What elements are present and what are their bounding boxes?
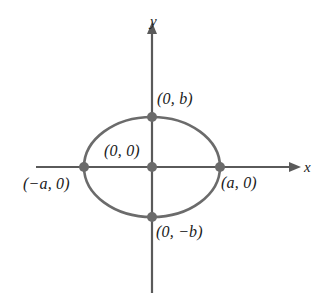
point-top-vertex (147, 112, 157, 122)
label-top-vertex: (0, b) (157, 91, 193, 107)
figure-canvas (0, 0, 323, 307)
ellipse-figure: (0, b) (0, 0) (−a, 0) (a, 0) (0, −b) y x (0, 0, 323, 307)
point-center-origin (147, 162, 157, 172)
label-left-vertex: (−a, 0) (23, 176, 70, 192)
label-bottom-vertex: (0, −b) (156, 224, 203, 240)
y-axis-label: y (150, 14, 157, 29)
label-right-vertex: (a, 0) (221, 175, 257, 191)
point-left-vertex (79, 162, 89, 172)
x-axis-label: x (304, 160, 311, 175)
label-center-origin: (0, 0) (104, 143, 140, 159)
point-bottom-vertex (147, 212, 157, 222)
point-right-vertex (215, 162, 225, 172)
x-axis-arrowhead (289, 162, 301, 172)
